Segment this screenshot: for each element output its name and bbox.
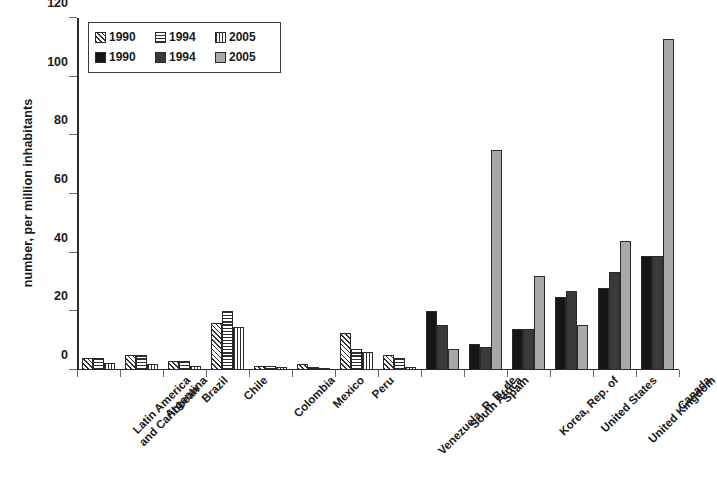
bar	[340, 333, 351, 370]
x-axis-label: Mexico	[330, 374, 366, 410]
y-axis-tick	[69, 310, 77, 311]
y-axis-tick	[69, 17, 77, 18]
x-axis-tick	[378, 370, 379, 377]
y-axis-tick-label: 100	[30, 55, 68, 69]
legend-swatch-diagonal-hatch-icon	[95, 32, 106, 43]
bar	[254, 366, 265, 370]
bar-group	[378, 18, 421, 370]
bar	[609, 272, 620, 370]
bar	[319, 368, 330, 370]
bar	[351, 349, 362, 370]
legend-item-2005-hatched: 2005	[215, 30, 275, 44]
y-axis-tick	[69, 134, 77, 135]
bar	[136, 355, 147, 370]
legend-swatch-solid-black-icon	[95, 52, 106, 63]
bar	[147, 364, 158, 370]
bar-group	[636, 18, 679, 370]
bar	[491, 150, 502, 370]
bar	[233, 327, 244, 370]
legend-swatch-horizontal-hatch-icon	[155, 32, 166, 43]
legend-label: 1994	[169, 30, 196, 44]
bar	[211, 323, 222, 370]
x-axis-tick	[163, 370, 164, 377]
legend-item-1990-solid: 1990	[95, 50, 155, 64]
legend-item-1994-hatched: 1994	[155, 30, 215, 44]
bar	[448, 349, 459, 370]
y-axis-tick-label: 20	[30, 289, 68, 303]
bar	[534, 276, 545, 370]
y-axis-tick-label: 60	[30, 172, 68, 186]
bar	[641, 256, 652, 370]
x-axis-tick	[550, 370, 551, 377]
legend-swatch-vertical-hatch-icon	[215, 32, 226, 43]
bar	[394, 358, 405, 370]
legend-item-2005-solid: 2005	[215, 50, 275, 64]
bar	[82, 358, 93, 370]
legend-swatch-solid-dark-gray-icon	[155, 52, 166, 63]
x-axis-label: Chile	[241, 374, 270, 403]
legend-row-solid: 1990 1994 2005	[95, 47, 275, 67]
chart-legend: 1990 1994 2005 1990 1994 2005	[88, 22, 281, 73]
x-axis-tick	[335, 370, 336, 377]
legend-swatch-solid-light-gray-icon	[215, 52, 226, 63]
bar-group	[550, 18, 593, 370]
bar	[469, 344, 480, 370]
y-axis-tick	[69, 369, 77, 370]
legend-item-1990-hatched: 1990	[95, 30, 155, 44]
bar	[297, 364, 308, 370]
bar	[405, 367, 416, 370]
bar	[276, 367, 287, 370]
bar	[179, 361, 190, 370]
x-axis-label: Peru	[369, 374, 396, 401]
x-axis-tick	[593, 370, 594, 377]
legend-label: 1990	[109, 30, 136, 44]
bar	[362, 352, 373, 370]
y-axis-tick-label: 40	[30, 231, 68, 245]
bar	[652, 256, 663, 370]
legend-label: 1990	[109, 50, 136, 64]
x-axis-tick	[464, 370, 465, 377]
legend-label: 2005	[229, 50, 256, 64]
bar	[426, 311, 437, 370]
bar	[168, 361, 179, 370]
bar	[190, 366, 201, 370]
bar	[265, 366, 276, 370]
bar-group	[464, 18, 507, 370]
x-axis-tick	[77, 370, 78, 377]
legend-label: 2005	[229, 30, 256, 44]
x-axis-tick	[636, 370, 637, 377]
x-axis-tick	[249, 370, 250, 377]
legend-label: 1994	[169, 50, 196, 64]
bar-group	[507, 18, 550, 370]
bar	[93, 358, 104, 370]
x-axis-tick	[120, 370, 121, 377]
bar	[566, 291, 577, 370]
bar	[222, 311, 233, 370]
bar-group	[593, 18, 636, 370]
y-axis-tick-label: 120	[30, 0, 68, 10]
legend-row-hatched: 1990 1994 2005	[95, 27, 275, 47]
bar	[308, 367, 319, 370]
x-axis-tick	[292, 370, 293, 377]
y-axis-tick	[69, 252, 77, 253]
y-axis-tick-label: 0	[30, 348, 68, 362]
y-axis-tick	[69, 76, 77, 77]
bar	[512, 329, 523, 370]
bar	[620, 241, 631, 370]
bar	[125, 355, 136, 370]
bar	[383, 355, 394, 370]
y-axis-tick	[69, 193, 77, 194]
bar	[104, 363, 115, 370]
legend-item-1994-solid: 1994	[155, 50, 215, 64]
bar	[437, 325, 448, 370]
x-axis-tick	[679, 370, 680, 377]
bar	[523, 329, 534, 370]
bar	[663, 39, 674, 370]
bar	[480, 347, 491, 370]
y-axis-tick-label: 80	[30, 113, 68, 127]
bar	[555, 297, 566, 370]
bar-group	[335, 18, 378, 370]
x-axis-tick	[421, 370, 422, 377]
bar-group	[421, 18, 464, 370]
